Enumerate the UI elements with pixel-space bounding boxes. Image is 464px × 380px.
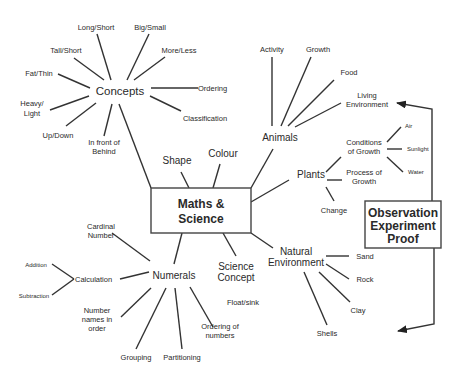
plant-change: Change [321,206,347,215]
animal-living: Living [357,91,377,100]
edge-main-animals [251,149,273,188]
edge-concepts-infront [104,104,112,136]
concept-more-less: More/Less [161,46,196,55]
central-title-line2: Science [178,212,224,226]
proof-label: Proof [387,232,419,246]
numerals-grouping: Grouping [121,353,152,362]
number-names-line2: names in [82,315,112,324]
edge-conditions-water [387,157,403,172]
edge-shape-main [181,172,189,188]
edge-colour-main [213,164,220,188]
natural-environment-line1: Natural [280,246,312,257]
concept-in-front-of: In front of [88,138,121,147]
edge-concepts-longshort [97,34,111,80]
edge-numerals-partitioning [175,288,182,349]
edge-concepts-fatthin [58,74,90,88]
concept-heavy: Heavy/ [20,99,44,108]
concept-tall-short: Tall/Short [50,46,82,55]
arrow-to-living-environment [397,103,432,201]
edge-plants-conditions [326,157,341,172]
edge-calculation-addition [52,264,74,279]
colour-node: Colour [208,148,238,159]
edge-calculation-subtraction [52,279,74,295]
cardinal-number-line2: Number [88,231,115,240]
edge-main-numerals [174,233,182,264]
edge-main-plants [251,180,289,202]
concept-light: Light [24,109,41,118]
natural-environment-line2: Environment [268,257,324,268]
condition-air: Air [405,123,412,129]
edge-numerals-names [121,288,151,317]
edge-plants-change [326,187,334,201]
animal-activity: Activity [260,45,284,54]
science-float-sink: Float/sink [227,298,259,307]
experiment-label: Experiment [370,219,435,233]
ordering-of-numbers-line1: Ordering of [201,322,239,331]
numerals-partitioning: Partitioning [163,353,201,362]
shape-node: Shape [163,155,192,166]
numerals-node: Numerals [153,270,196,281]
edge-concepts-main [119,104,151,188]
process-of-growth-line2: Growth [352,177,376,186]
number-names-line3: order [88,324,106,333]
central-title-line1: Maths & [178,197,225,211]
edge-animals-living [295,103,341,127]
concept-ordering: Ordering [198,84,227,93]
animal-growth: Growth [306,45,330,54]
cardinal-number-line1: Cardinal [87,222,115,231]
concept-big-small: Big/Small [134,23,166,32]
animals-node: Animals [262,132,298,143]
edge-concepts-bigsmall [127,34,149,80]
edge-main-science [223,233,236,256]
edge-conditions-air [387,127,401,142]
concepts-node: Concepts [96,85,145,97]
edge-main-natural [251,233,273,248]
calculation-addition: Addition [25,262,47,268]
plants-node: Plants [297,169,325,180]
condition-sunlight: Sunlight [407,146,429,152]
observation-label: Observation [368,206,438,220]
calculation-node: Calculation [75,275,112,284]
concept-map: Maths & Science Observation Experiment P… [0,0,464,380]
edge-animals-growth [281,57,311,126]
natural-clay: Clay [350,306,365,315]
process-of-growth-line1: Process of [346,168,382,177]
concept-long-short: Long/Short [78,23,116,32]
edge-numerals-calculation [120,272,149,279]
natural-rock: Rock [356,275,373,284]
calculation-subtraction: Subtraction [19,293,49,299]
arrow-to-natural-environment [398,248,434,331]
animal-food: Food [340,68,357,77]
natural-shells: Shells [317,329,338,338]
edge-numerals-ordering [190,287,213,327]
science-concept-line1: Science [218,261,254,272]
concept-behind: Behind [92,147,115,156]
ordering-of-numbers-line2: numbers [205,331,234,340]
natural-sand: Sand [356,252,374,261]
edge-natural-shells [304,272,327,325]
concept-classification: Classification [183,114,227,123]
edge-numerals-grouping [136,288,166,349]
edge-concepts-updown [66,103,96,126]
animal-environment: Environment [346,100,389,109]
conditions-of-growth-line1: Conditions [346,138,382,147]
concept-up-down: Up/Down [43,131,74,140]
edge-concepts-heavylight [50,96,89,110]
edge-natural-rock [326,264,349,279]
concept-fat-thin: Fat/Thin [25,69,53,78]
conditions-of-growth-line2: of Growth [348,147,381,156]
edge-concepts-classification [150,96,181,111]
number-names-line1: Number [84,306,111,315]
science-concept-line2: Concept [217,272,254,283]
edge-concepts-moreless [134,57,165,80]
edge-numerals-cardinal [112,233,150,261]
condition-water: Water [408,169,424,175]
edge-concepts-tallshort [74,58,104,80]
